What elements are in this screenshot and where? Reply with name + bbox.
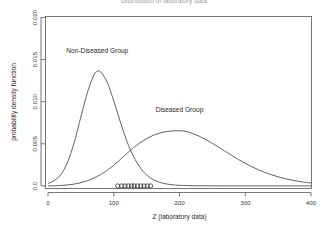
y-tick-label: 0.010 xyxy=(31,93,38,109)
x-tick-label: 300 xyxy=(240,199,251,206)
figure-title-clipped: Distribution of laboratory data xyxy=(121,0,207,5)
rug-point xyxy=(116,184,120,188)
curve-diseased xyxy=(48,131,311,186)
y-tick-label: 0.015 xyxy=(31,51,38,67)
plot-panel-border xyxy=(46,17,312,189)
annotation-non-diseased-group: Non-Diseased Group xyxy=(66,47,128,55)
x-tick-label: 200 xyxy=(174,199,185,206)
x-tick-label: 400 xyxy=(306,199,317,206)
y-tick-label: 0.0 xyxy=(31,181,38,190)
y-tick-label: 0.005 xyxy=(31,135,38,151)
y-tick-labels: 0.020 0.015 0.010 0.005 0.0 xyxy=(31,9,38,190)
density-plot: Distribution of laboratory data 0.020 0.… xyxy=(0,0,329,230)
y-axis-title: probability density function xyxy=(10,63,18,141)
x-tick-labels: 0 100 200 300 400 xyxy=(46,199,316,206)
x-axis-title: Z (laboratory data) xyxy=(152,213,206,221)
annotation-diseased-group: Diseased Group xyxy=(156,106,204,114)
y-axis-ticks xyxy=(41,18,46,186)
y-tick-label: 0.020 xyxy=(31,9,38,25)
x-tick-label: 0 xyxy=(46,199,50,206)
chart-figure: Distribution of laboratory data 0.020 0.… xyxy=(0,0,329,230)
x-tick-label: 100 xyxy=(109,199,120,206)
rug-markers xyxy=(116,184,153,188)
figure-title-text: Distribution of laboratory data xyxy=(121,0,207,5)
x-axis-ticks xyxy=(48,193,311,197)
curve-non-diseased xyxy=(48,71,311,186)
